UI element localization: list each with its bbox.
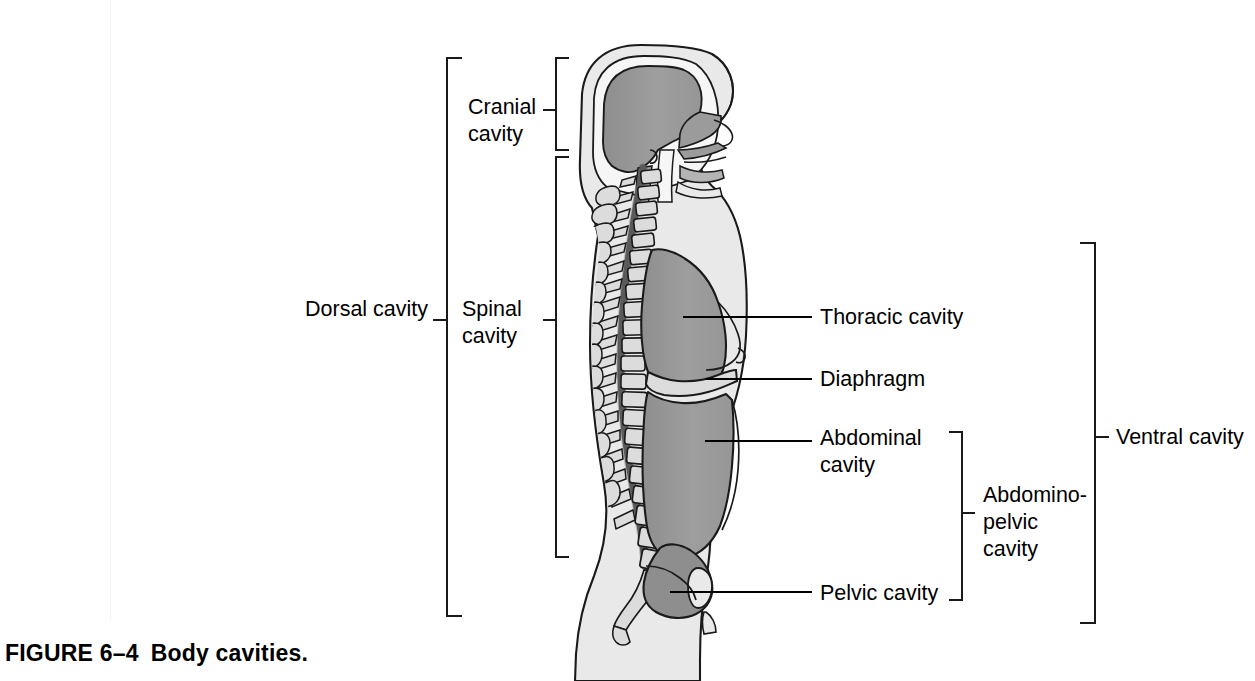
anatomy-illustration [0, 0, 1255, 681]
ventral-cavity-label: Ventral cavity [1116, 424, 1244, 451]
pelvic-cavity-label: Pelvic cavity [820, 580, 938, 607]
spinal-cavity-bracket [544, 157, 568, 557]
figure-caption-number: FIGURE 6–4 [5, 640, 139, 666]
thoracic-cavity-label: Thoracic cavity [820, 304, 963, 331]
dorsal-cavity-bracket [434, 58, 461, 616]
figure-caption-title: Body cavities. [151, 640, 308, 666]
abdominal-cavity-fill [643, 392, 734, 558]
ventral-cavity-bracket [1081, 243, 1108, 623]
diaphragm-label: Diaphragm [820, 366, 925, 393]
abdominopelvic-cavity-label: Abdomino- pelvic cavity [983, 482, 1087, 563]
bladder [688, 568, 712, 608]
abdominal-cavity-region [643, 392, 739, 558]
body-cavities-figure: Dorsal cavity Cranial cavity Spinal cavi… [0, 0, 1255, 681]
figure-caption: FIGURE 6–4Body cavities. [5, 640, 308, 667]
pubic-bone [703, 612, 717, 634]
cranial-cavity-label: Cranial cavity [468, 94, 536, 148]
spinal-cavity-label: Spinal cavity [462, 296, 522, 350]
cranial-cavity-bracket [544, 58, 568, 150]
abdominal-cavity-label: Abdominal cavity [820, 425, 922, 479]
abdominopelvic-cavity-bracket [950, 432, 974, 600]
dorsal-cavity-label: Dorsal cavity [305, 296, 428, 323]
